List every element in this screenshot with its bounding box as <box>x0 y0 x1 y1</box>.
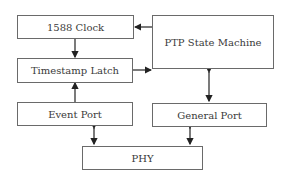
ptp-state-machine-block: PTP State Machine <box>152 15 274 69</box>
phy-label: PHY <box>131 153 153 164</box>
clock-label: 1588 Clock <box>47 22 104 33</box>
timestamp-latch-label: Timestamp Latch <box>31 65 119 76</box>
ptp-state-machine-label: PTP State Machine <box>164 37 261 48</box>
phy-block: PHY <box>82 146 203 170</box>
general-port-label: General Port <box>177 110 242 121</box>
clock-block: 1588 Clock <box>17 15 134 39</box>
timestamp-latch-block: Timestamp Latch <box>17 58 133 83</box>
event-port-block: Event Port <box>17 102 133 126</box>
event-port-label: Event Port <box>48 109 102 120</box>
general-port-block: General Port <box>152 103 267 127</box>
